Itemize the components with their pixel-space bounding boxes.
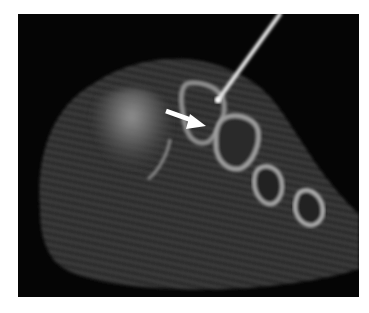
- ct-image-frame: [18, 14, 359, 297]
- bone-2: [216, 116, 259, 170]
- ct-scan: [18, 14, 359, 297]
- bone-3: [254, 166, 282, 204]
- soft-tissue: [39, 59, 359, 290]
- bone-4: [295, 190, 323, 225]
